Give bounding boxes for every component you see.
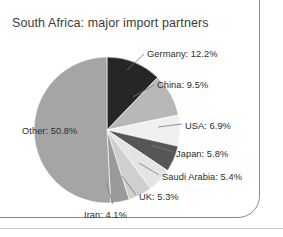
pie-label-japan: Japan: 5.8% (176, 149, 228, 159)
pie-label-iran: Iran: 4.1% (84, 210, 127, 220)
pie-label-usa: USA: 6.9% (185, 121, 231, 131)
pie-label-germany: Germany: 12.2% (147, 49, 217, 59)
pie-label-china: China: 9.5% (157, 80, 208, 90)
chart-page: South Africa: major import partners Germ… (0, 0, 283, 237)
pie-label-other: Other: 50.8% (22, 126, 77, 136)
pie-label-uk: UK: 5.3% (139, 192, 179, 202)
pie-label-saudi-arabia: Saudi Arabia: 5.4% (162, 172, 242, 182)
